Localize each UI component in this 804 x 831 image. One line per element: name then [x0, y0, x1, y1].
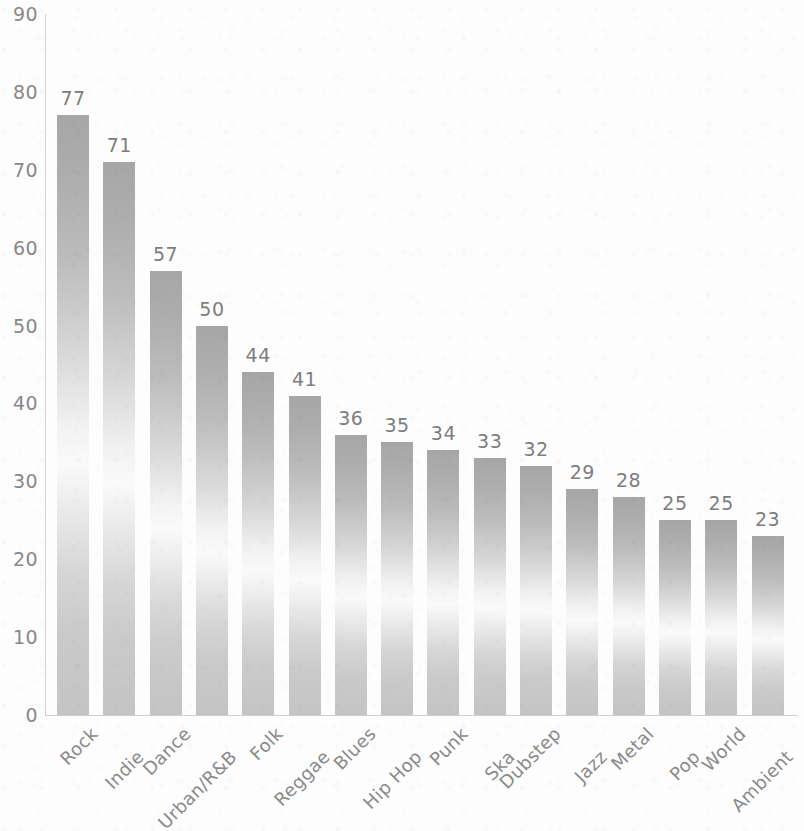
bar-blues[interactable] — [335, 435, 367, 715]
bar-group[interactable]: 34 — [427, 14, 459, 715]
x-axis-category-labels: RockIndieDanceUrban/R&BFolkReggaeBluesHi… — [46, 715, 798, 831]
y-tick-label-60: 60 — [2, 237, 38, 259]
y-tick-label-40: 40 — [2, 392, 38, 414]
y-tick-label-80: 80 — [2, 81, 38, 103]
bar-jazz[interactable] — [566, 489, 598, 715]
bar-chart-figure: 0102030405060708090 77715750444136353433… — [0, 0, 804, 831]
bar-group[interactable]: 71 — [103, 14, 135, 715]
bar-urban-r-b[interactable] — [196, 326, 228, 715]
bar-group[interactable]: 35 — [381, 14, 413, 715]
y-tick-label-10: 10 — [2, 626, 38, 648]
bar-hip-hop[interactable] — [381, 442, 413, 715]
y-tick-label-70: 70 — [2, 159, 38, 181]
bar-group[interactable]: 57 — [150, 14, 182, 715]
bar-punk[interactable] — [427, 450, 459, 715]
bar-metal[interactable] — [613, 497, 645, 715]
bar-value-label: 57 — [138, 243, 194, 265]
y-tick-label-30: 30 — [2, 470, 38, 492]
y-axis-line — [45, 14, 46, 716]
bar-value-label: 50 — [184, 298, 240, 320]
bar-folk[interactable] — [242, 372, 274, 715]
bar-indie[interactable] — [103, 162, 135, 715]
bar-value-label: 23 — [740, 508, 796, 530]
bar-group[interactable]: 50 — [196, 14, 228, 715]
bar-value-label: 71 — [91, 134, 147, 156]
bar-value-label: 77 — [45, 87, 101, 109]
bar-group[interactable]: 25 — [659, 14, 691, 715]
bar-ambient[interactable] — [752, 536, 784, 715]
bar-dance[interactable] — [150, 271, 182, 715]
bar-ska[interactable] — [474, 458, 506, 715]
bar-group[interactable]: 44 — [242, 14, 274, 715]
bar-group[interactable]: 36 — [335, 14, 367, 715]
bar-value-label: 32 — [508, 438, 564, 460]
bar-world[interactable] — [705, 520, 737, 715]
bar-group[interactable]: 41 — [289, 14, 321, 715]
bar-value-label: 44 — [230, 344, 286, 366]
x-axis-line — [45, 715, 798, 716]
plot-area: 77715750444136353433322928252523 — [46, 14, 798, 715]
y-tick-label-90: 90 — [2, 3, 38, 25]
bar-rock[interactable] — [57, 115, 89, 715]
bar-group[interactable]: 33 — [474, 14, 506, 715]
bar-group[interactable]: 25 — [705, 14, 737, 715]
bar-group[interactable]: 77 — [57, 14, 89, 715]
bar-group[interactable]: 32 — [520, 14, 552, 715]
bar-dubstep[interactable] — [520, 466, 552, 715]
y-axis-tick-labels: 0102030405060708090 — [0, 0, 38, 831]
y-tick-label-20: 20 — [2, 548, 38, 570]
bar-value-label: 28 — [601, 469, 657, 491]
y-tick-label-0: 0 — [2, 704, 38, 726]
bar-group[interactable]: 28 — [613, 14, 645, 715]
bar-reggae[interactable] — [289, 396, 321, 715]
bar-group[interactable]: 23 — [752, 14, 784, 715]
y-tick-label-50: 50 — [2, 315, 38, 337]
bar-group[interactable]: 29 — [566, 14, 598, 715]
bar-value-label: 41 — [277, 368, 333, 390]
bar-pop[interactable] — [659, 520, 691, 715]
